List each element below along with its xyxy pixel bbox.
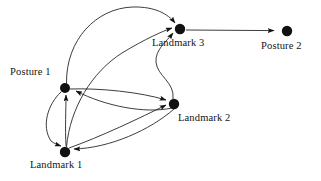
node-label-posture1: Posture 1: [10, 66, 51, 77]
edge-landmark2-posture1-lower: [76, 91, 172, 110]
node-landmark1[interactable]: [60, 147, 70, 157]
edge-posture1-landmark2-upper: [70, 89, 166, 100]
edge-landmark3-posture2: [186, 30, 274, 31]
edge-landmark2-landmark1-lower: [74, 109, 174, 149]
node-posture2[interactable]: [282, 26, 292, 36]
edge-layer: [46, 7, 274, 149]
node-label-posture2: Posture 2: [261, 40, 302, 51]
node-label-landmark2: Landmark 2: [178, 112, 231, 123]
edge-landmark1-landmark2-upper: [69, 105, 166, 148]
edge-posture1-landmark1-left: [46, 92, 61, 146]
diagram-canvas: Posture 1 Landmark 1 Landmark 2 Landmark…: [0, 0, 321, 181]
node-label-landmark1: Landmark 1: [30, 159, 83, 170]
node-posture1[interactable]: [60, 83, 70, 93]
node-landmark3[interactable]: [175, 24, 185, 34]
node-landmark2[interactable]: [169, 99, 179, 109]
node-label-landmark3: Landmark 3: [152, 37, 205, 48]
graph-svg: [0, 0, 321, 181]
